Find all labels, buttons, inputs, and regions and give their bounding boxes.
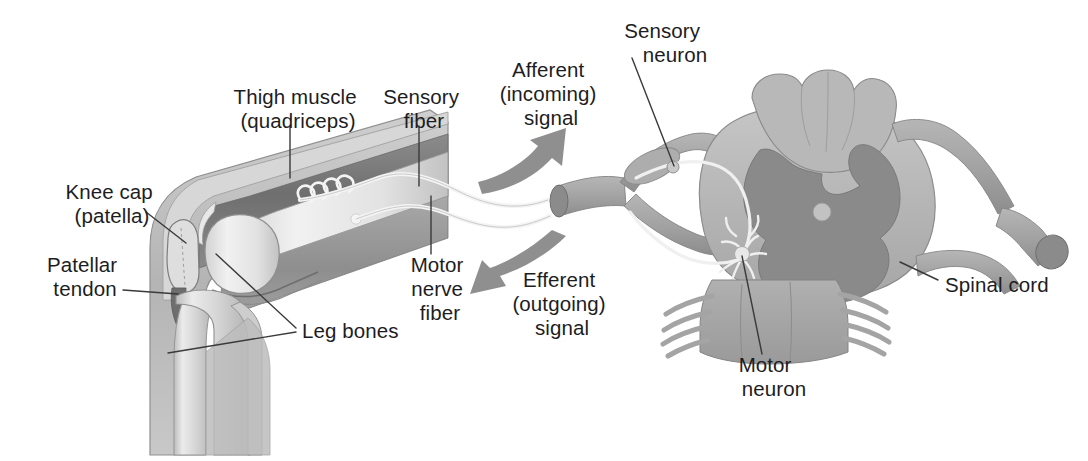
label-knee-cap-line1: Knee cap [65,180,152,203]
central-canal [813,203,831,221]
diagram-canvas: Thigh muscle (quadriceps) Sensory fiber … [0,0,1088,461]
label-motor-nerve-fiber-line2: nerve [411,277,463,300]
label-sensory-fiber-line1: Sensory [383,85,460,108]
afferent-arrow-icon [478,128,566,194]
label-knee-cap: Knee cap (patella) [65,180,158,227]
label-sensory-fiber-line2: fiber [404,109,444,132]
label-afferent-signal-line2: (incoming) [500,82,597,105]
patella-bone [167,220,199,293]
label-sensory-neuron: Sensory neuron [624,19,707,66]
left-spinal-nerve-trunk [558,176,626,216]
label-leg-bones: Leg bones [302,319,399,342]
label-patellar-tendon: Patellar tendon [47,253,123,300]
label-motor-neuron: Motor neuron [739,353,807,400]
label-sensory-neuron-line1: Sensory [624,19,701,42]
label-motor-neuron-line2: neuron [742,377,806,400]
label-motor-nerve-fiber-line1: Motor [411,253,464,276]
label-afferent-signal-line3: signal [524,106,578,129]
label-efferent-signal-line2: (outgoing) [512,292,605,315]
label-efferent-signal-line3: signal [535,316,589,339]
spinal-cord-illustration [550,70,1073,364]
label-knee-cap-line2: (patella) [75,204,150,227]
label-spinal-cord: Spinal cord [945,273,1049,296]
label-thigh-muscle-line1: Thigh muscle [234,85,357,108]
label-thigh-muscle-line2: (quadriceps) [240,109,355,132]
left-nerve-cut-end [550,185,568,217]
label-spinal-cord-line1: Spinal cord [945,273,1049,296]
label-patellar-tendon-line2: tendon [53,277,116,300]
label-patellar-tendon-line1: Patellar [47,253,117,276]
label-thigh-muscle: Thigh muscle (quadriceps) [234,85,363,132]
reflex-arc-figure: Thigh muscle (quadriceps) Sensory fiber … [0,0,1088,461]
leader-sensory-neuron [632,58,674,166]
label-sensory-neuron-line2: neuron [643,43,707,66]
cord-body-segment [700,280,848,364]
label-afferent-signal-line1: Afferent [512,58,584,81]
label-motor-nerve-fiber: Motor nerve fiber [411,253,470,324]
label-motor-neuron-line1: Motor [739,353,792,376]
label-efferent-signal: Efferent (outgoing) signal [512,268,611,339]
label-leg-bones-line1: Leg bones [302,319,399,342]
label-efferent-signal-line1: Efferent [523,268,595,291]
label-afferent-signal: Afferent (incoming) signal [500,58,603,129]
label-motor-nerve-fiber-line3: fiber [420,301,460,324]
